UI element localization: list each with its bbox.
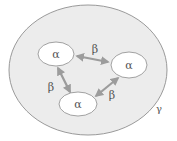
node-alpha-3-label: α [74,98,82,111]
edge-n3-n2-label: β [109,89,115,102]
edge-n1-n3-label: β [48,81,54,94]
node-alpha-1-label: α [52,48,60,61]
node-alpha-3: α [59,92,97,116]
diagram-canvas: α α α β β β γ [0,0,177,141]
node-alpha-2-label: α [125,59,133,72]
edge-n1-n2-label: β [92,43,98,56]
node-alpha-2: α [111,52,147,78]
node-alpha-1: α [38,42,74,66]
outer-region-label: γ [156,103,162,114]
